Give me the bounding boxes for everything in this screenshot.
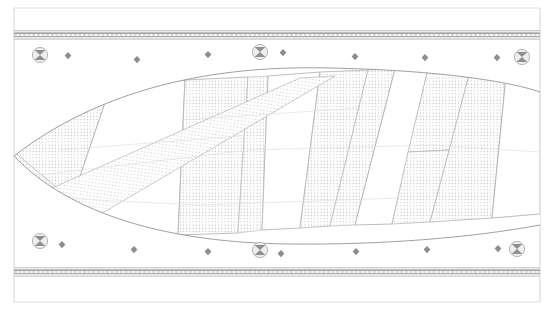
bowtie-anchor-icon[interactable] xyxy=(32,47,47,62)
bowtie-anchor-icon[interactable] xyxy=(252,44,267,59)
bowtie-anchor-icon[interactable] xyxy=(252,242,267,257)
bowtie-anchor-icon[interactable] xyxy=(509,241,524,256)
elevation-svg xyxy=(0,0,553,310)
bowtie-anchor-icon[interactable] xyxy=(32,233,47,248)
lower-cornice-band xyxy=(14,268,540,277)
bowtie-anchor-icon[interactable] xyxy=(514,49,529,64)
cad-drawing-canvas xyxy=(0,0,553,310)
upper-cornice-band xyxy=(14,31,540,40)
